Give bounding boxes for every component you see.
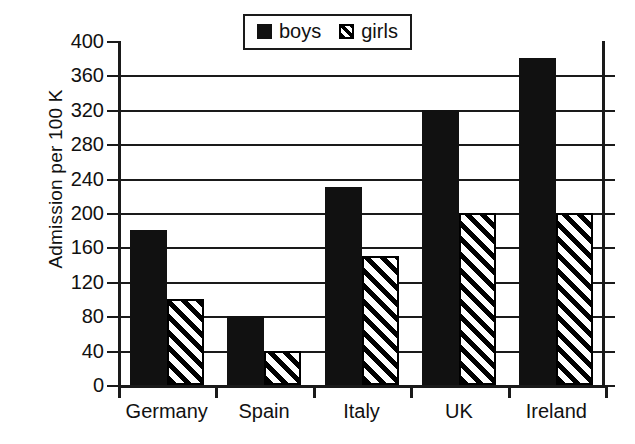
y-axis-tick-label: 40 [82,339,104,362]
plot-area: 04080120160200240280320360400 [118,41,605,385]
bar-boys [325,187,362,385]
y-axis-tick-label: 120 [71,270,104,293]
y-axis-tick [107,75,118,77]
bar-groups [118,41,605,385]
y-axis-tick [107,316,118,318]
x-axis-tick [118,385,121,398]
legend-label-boys: boys [279,20,321,43]
x-axis-category-labels: GermanySpainItalyUKIreland [118,400,605,423]
y-axis-tick [107,110,118,112]
x-axis-label-spain: Spain [215,400,312,423]
y-axis-title: Admission per 100 K [45,29,67,329]
bar-boys [519,58,556,385]
y-axis-tick-right [605,110,615,112]
y-axis-tick-label: 80 [82,305,104,328]
x-axis-label-uk: UK [410,400,507,423]
bar-group [410,41,507,385]
bar-boys [422,110,459,385]
x-axis-tick [215,385,218,398]
x-axis-tick [410,385,413,398]
y-axis-tick [107,247,118,249]
x-axis-label-ireland: Ireland [508,400,605,423]
y-axis-tick-label: 240 [71,167,104,190]
bar-group [508,41,605,385]
bar-group [313,41,410,385]
y-axis-tick [107,213,118,215]
bar-boys [130,230,167,385]
y-axis-tick [107,351,118,353]
legend-entry-boys: boys [257,20,321,43]
y-axis-tick-right [605,144,615,146]
y-axis-tick-right [605,316,615,318]
y-axis-tick-right [605,179,615,181]
legend-swatch-boys-icon [257,24,272,39]
y-axis-tick-right [605,213,615,215]
x-axis-tick [605,385,608,398]
bar-chart: Admission per 100 K 04080120160200240280… [0,0,635,444]
y-axis-tick-label: 400 [71,30,104,53]
chart-legend: boys girls [243,14,412,50]
y-axis-tick-right [605,75,615,77]
bar-girls [362,256,399,385]
y-axis-tick-label: 160 [71,236,104,259]
x-axis-label-germany: Germany [118,400,215,423]
y-axis-tick-label: 0 [93,374,104,397]
y-axis-tick [107,282,118,284]
bar-group [215,41,312,385]
y-axis-tick [107,385,118,387]
legend-swatch-girls-icon [339,24,354,39]
x-axis-label-italy: Italy [313,400,410,423]
legend-entry-girls: girls [339,20,398,43]
x-axis-tick [508,385,511,398]
y-axis-tick-label: 280 [71,133,104,156]
y-axis-tick-label: 200 [71,202,104,225]
y-axis-tick-label: 320 [71,98,104,121]
gridline [118,385,605,388]
y-axis-tick-right [605,282,615,284]
bar-girls [556,213,593,385]
bar-girls [264,351,301,385]
y-axis-tick [107,144,118,146]
y-axis-tick [107,179,118,181]
legend-label-girls: girls [361,20,398,43]
bar-boys [227,316,264,385]
bar-group [118,41,215,385]
x-axis-tick [313,385,316,398]
y-axis-tick-right [605,351,615,353]
y-axis-tick-right [605,247,615,249]
y-axis-tick-label: 360 [71,64,104,87]
bar-girls [459,213,496,385]
bar-girls [167,299,204,385]
y-axis-tick [107,41,118,43]
